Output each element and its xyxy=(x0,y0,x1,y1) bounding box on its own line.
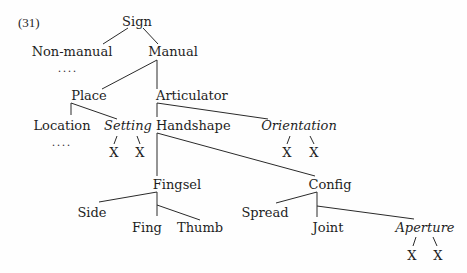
edge-sign-nonmanual xyxy=(103,28,128,44)
edge-orientation-x2 xyxy=(310,136,314,144)
edge-config-spread xyxy=(276,192,317,203)
node-setting-x1: X xyxy=(109,146,118,160)
tree-diagram: (31) Sign Non-manual .... Manual Place A… xyxy=(0,0,467,273)
edge-articulator-orientation xyxy=(157,103,268,119)
edge-manual-place xyxy=(102,60,157,89)
edge-fingsel-side xyxy=(99,192,157,202)
edge-aperture-x1 xyxy=(413,237,416,246)
node-handshape: Handshape xyxy=(156,119,231,133)
node-config: Config xyxy=(308,178,351,192)
node-setting: Setting xyxy=(104,119,152,133)
node-sign: Sign xyxy=(122,15,152,29)
node-manual: Manual xyxy=(148,45,198,59)
node-fing: Fing xyxy=(132,221,162,235)
node-orientation-x1: X xyxy=(282,146,291,160)
node-thumb: Thumb xyxy=(177,221,223,235)
node-setting-x2: X xyxy=(135,146,144,160)
edge-setting-x1 xyxy=(114,136,117,144)
edge-sign-manual xyxy=(143,28,158,44)
node-orientation: Orientation xyxy=(261,119,337,133)
node-spread: Spread xyxy=(241,206,288,220)
edge-config-aperture xyxy=(317,206,414,219)
node-side: Side xyxy=(77,206,106,220)
edge-place-setting xyxy=(71,103,117,119)
node-aperture-x2: X xyxy=(433,249,442,263)
node-non-manual: Non-manual xyxy=(32,45,113,59)
node-place: Place xyxy=(71,89,107,103)
node-aperture: Aperture xyxy=(395,221,454,235)
edge-fingsel-thumb xyxy=(157,205,200,220)
edge-setting-x2 xyxy=(137,136,140,144)
node-aperture-x1: X xyxy=(407,249,416,263)
node-location: Location xyxy=(33,119,90,133)
node-joint: Joint xyxy=(313,221,344,235)
example-number: (31) xyxy=(18,15,40,31)
node-orientation-x2: X xyxy=(309,146,318,160)
node-fingsel: Fingsel xyxy=(153,178,201,192)
node-articulator: Articulator xyxy=(156,89,228,103)
edge-orientation-x1 xyxy=(287,136,290,144)
ellipsis-non-manual: .... xyxy=(58,61,78,76)
edge-aperture-x2 xyxy=(433,237,437,246)
ellipsis-location: .... xyxy=(52,135,72,150)
